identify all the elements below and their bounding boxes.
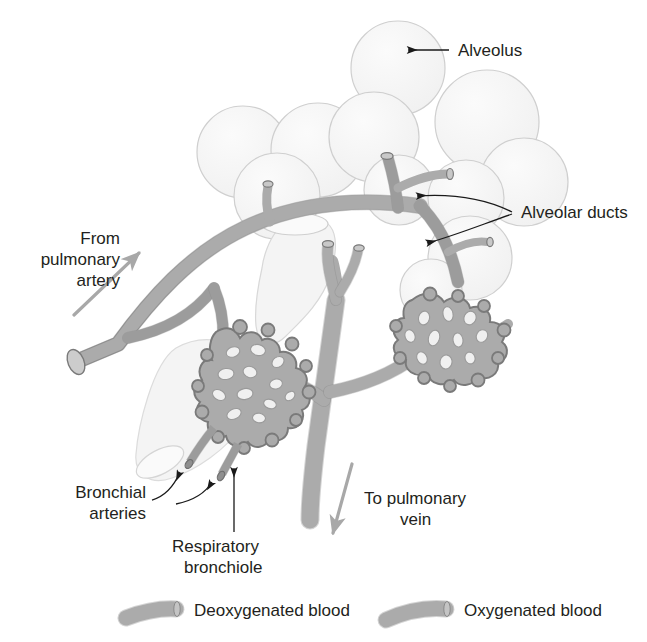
label-from-pulmonary-artery-line3: artery [77,271,121,290]
flow-arrow-to-pulmonary-vein [333,464,352,533]
vein-cap-up-right [354,245,364,251]
bronchial-artery-stub-2-outline [222,444,238,474]
artery-cap-right-ascending [381,153,393,160]
label-bronchial-arteries: Bronchial arteries [75,483,146,523]
label-bronchial-arteries-line2: arteries [89,504,146,523]
artery-cap-spur-right-lower [487,237,493,246]
legend-swatch-oxygenated-cap [444,602,450,617]
pulmonary-circulation-diagram: Alveolus Alveolar ducts From pulmonary a… [0,0,647,642]
label-to-pulmonary-vein: To pulmonary vein [364,489,467,529]
legend-label-oxygenated: Oxygenated blood [464,601,602,620]
label-to-pulmonary-vein-line1: To pulmonary [364,489,467,508]
artery-stub-upper-left [267,186,270,222]
diagram-figure: Alveolus Alveolar ducts From pulmonary a… [0,0,647,642]
label-from-pulmonary-artery: From pulmonary artery [41,229,121,290]
label-respiratory-bronchiole-line2: bronchiole [184,558,262,577]
legend-label-deoxygenated: Deoxygenated blood [194,601,350,620]
artery-stub-cap-upper-left [263,181,273,187]
label-respiratory-bronchiole: Respiratory bronchiole [172,537,262,577]
label-to-pulmonary-vein-line2: vein [400,510,431,529]
label-respiratory-bronchiole-line1: Respiratory [172,537,259,556]
label-alveolus: Alveolus [458,41,522,60]
vein-branch-up-right-core [340,250,358,292]
legend-swatch-deoxygenated-cap [174,602,180,617]
artery-cap-spur-right [447,169,454,180]
pulmonary-vein-trunk-core [310,300,336,520]
label-alveolar-ducts: Alveolar ducts [521,203,628,222]
right-capillary-network [390,288,511,393]
label-from-pulmonary-artery-line1: From [80,229,120,248]
label-from-pulmonary-artery-line2: pulmonary [41,250,121,269]
vein-cap-up-left [322,241,333,248]
alveoli-group [197,21,568,321]
leader-bronchial-artery-2 [176,482,212,504]
label-bronchial-arteries-line1: Bronchial [75,483,146,502]
